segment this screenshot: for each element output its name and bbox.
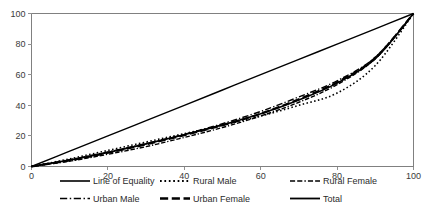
series-line-of-equality <box>32 14 414 167</box>
legend-label: Urban Male <box>93 194 140 204</box>
legend-item-urban-male[interactable]: Urban Male <box>60 194 140 204</box>
y-tick-label: 80 <box>15 39 25 49</box>
legend-item-line-of-equality[interactable]: Line of Equality <box>60 176 155 186</box>
legend-label: Line of Equality <box>93 176 155 186</box>
lorenz-curve-chart: 020406080100 020406080100 Line of Equali… <box>0 0 438 213</box>
x-tick-label: 40 <box>179 171 189 181</box>
legend-label: Rural Male <box>193 176 237 186</box>
legend-item-rural-male[interactable]: Rural Male <box>160 176 237 186</box>
y-axis-tick-labels: 020406080100 <box>10 9 25 172</box>
x-tick-label: 100 <box>406 171 421 181</box>
legend-item-total[interactable]: Total <box>290 194 342 204</box>
legend-label: Urban Female <box>193 194 250 204</box>
y-tick-label: 60 <box>15 70 25 80</box>
chart-legend: Line of EqualityRural MaleRural FemaleUr… <box>60 176 377 204</box>
x-tick-label: 60 <box>256 171 266 181</box>
y-tick-label: 100 <box>10 9 25 19</box>
y-tick-label: 40 <box>15 101 25 111</box>
chart-series-layer <box>32 14 414 167</box>
x-tick-label: 0 <box>29 171 34 181</box>
y-tick-label: 0 <box>20 162 25 172</box>
legend-item-rural-female[interactable]: Rural Female <box>290 176 377 186</box>
y-tick-label: 20 <box>15 131 25 141</box>
chart-canvas: 020406080100 020406080100 Line of Equali… <box>0 0 438 213</box>
legend-label: Total <box>323 194 342 204</box>
legend-item-urban-female[interactable]: Urban Female <box>160 194 250 204</box>
legend-label: Rural Female <box>323 176 377 186</box>
